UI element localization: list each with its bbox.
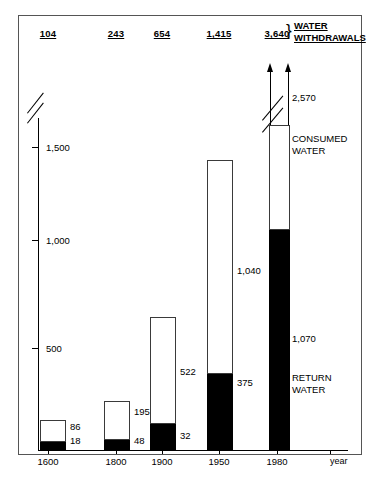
bar-1900-return[interactable] [150,424,176,450]
bar-1980-consumed[interactable] [269,125,290,230]
x-label-1600: 1600 [37,456,58,467]
bar-1800-consumed[interactable] [104,401,130,440]
bar-1950-consumed-label: 1,040 [237,265,261,276]
bar-1980-consumed-label: 2,570 [292,92,316,103]
water-withdrawals-label: WATER WITHDRAWALS [294,20,366,43]
y-label-1500: 1,500 [46,142,70,153]
x-label-1800: 1800 [105,456,126,467]
consumed-water-line-1: CONSUMED [292,133,347,145]
return-water-annotation: RETURN WATER [292,372,332,396]
y-tick-1000 [32,240,39,241]
y-tick-1500 [32,147,39,148]
x-tick-1980 [277,450,278,454]
bar-1900-consumed-label: 522 [180,366,196,377]
total-1900: 654 [154,28,170,39]
consumed-water-line-2: WATER [292,145,347,157]
bar-1950-consumed[interactable] [207,160,233,374]
bar-1950-return-label: 375 [237,377,253,388]
bar-1980-right-arrow-icon [285,63,291,72]
withdrawals-brace: } [286,22,292,39]
total-1600: 104 [40,28,56,39]
x-label-1900: 1900 [151,456,172,467]
bar-1800-consumed-label: 195 [134,406,150,417]
bar-1900-return-label: 32 [180,430,191,441]
y-axis [38,118,39,450]
bar-1600-return[interactable] [40,442,66,450]
withdrawals-line-1: WATER [294,20,366,32]
x-label-1950: 1950 [208,456,229,467]
bar-1600-consumed[interactable] [40,420,66,442]
y-axis-break-icon [27,104,51,130]
bar-1600-consumed-label: 86 [70,421,81,432]
withdrawals-line-2: WITHDRAWALS [294,32,366,44]
x-tick-1800 [116,450,117,454]
bar-1900-consumed[interactable] [150,317,176,424]
chart-canvas: 104 243 654 1,415 3,640 } WATER WITHDRAW… [0,0,378,482]
total-1950: 1,415 [207,28,232,39]
x-label-1980: 1980 [266,456,287,467]
x-axis-title: year [330,456,348,466]
bar-1800-return[interactable] [104,440,130,450]
x-tick-1900 [162,450,163,454]
y-label-1000: 1,000 [46,235,70,246]
total-1800: 243 [108,28,124,39]
bar-1600-return-label: 18 [70,435,81,446]
x-tick-1600 [48,450,49,454]
bar-1800-return-label: 48 [134,435,145,446]
bar-1980-return[interactable] [269,230,290,450]
bar-1980-return-label: 1,070 [292,333,316,344]
y-label-500: 500 [46,343,62,354]
consumed-water-annotation: CONSUMED WATER [292,133,347,157]
x-tick-end [330,450,331,454]
return-water-line-2: WATER [292,384,332,396]
x-axis [38,450,348,451]
bar-1950-return[interactable] [207,374,233,450]
y-tick-500 [32,348,39,349]
return-water-line-1: RETURN [292,372,332,384]
bar-1980-left-arrow-icon [267,63,273,72]
x-tick-1950 [219,450,220,454]
